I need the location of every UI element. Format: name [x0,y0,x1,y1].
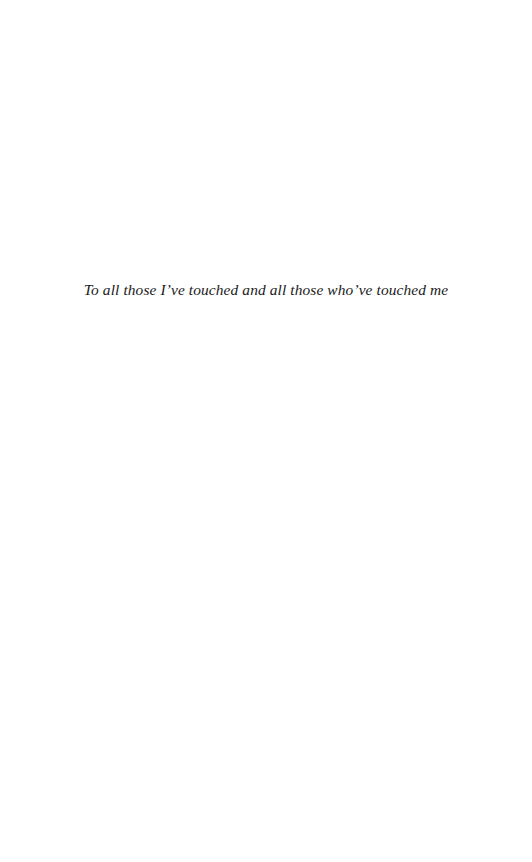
dedication-page: To all those I’ve touched and all those … [0,0,532,862]
dedication-block: To all those I’ve touched and all those … [0,0,532,862]
dedication-text: To all those I’ve touched and all those … [84,281,448,299]
